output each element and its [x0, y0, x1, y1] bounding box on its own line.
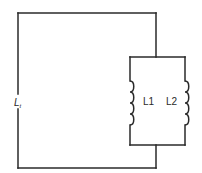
inductor-l1: [130, 57, 134, 145]
inductor-l2-label: L2: [166, 96, 178, 107]
coil-l2-icon: [185, 81, 189, 125]
total-inductance-label: Lt: [14, 97, 22, 109]
coil-l1-icon: [130, 81, 134, 125]
parallel-inductor-circuit: Lt L1 L2: [0, 0, 202, 173]
inductor-l2: [185, 57, 189, 145]
inductor-l1-label: L1: [143, 96, 155, 107]
